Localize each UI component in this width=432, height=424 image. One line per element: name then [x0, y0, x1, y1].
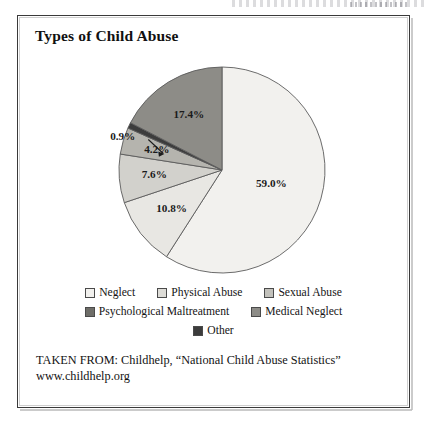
legend-swatch-icon	[85, 288, 95, 298]
legend-item-label: Sexual Abuse	[278, 287, 341, 299]
pie-slice-label: 17.4%	[173, 108, 204, 120]
legend-item-label: Psychological Maltreatment	[99, 306, 229, 318]
legend-item[interactable]: Neglect	[85, 287, 135, 299]
pie-chart-svg: 59.0%10.8%7.6%4.2%0.9%17.4%	[0, 0, 432, 300]
pie-slice-label: 0.9%	[110, 130, 135, 142]
pie-slice-label: 10.8%	[156, 202, 187, 214]
legend-swatch-icon	[251, 307, 261, 317]
source-line-1: TAKEN FROM: Childhelp, “National Child A…	[36, 352, 386, 368]
frame-shadow-bottom	[20, 409, 412, 411]
pie-slice-label: 59.0%	[256, 177, 287, 189]
legend-row: Other	[30, 321, 397, 340]
legend-swatch-icon	[264, 288, 274, 298]
legend-item[interactable]: Medical Neglect	[251, 306, 342, 318]
legend-item-label: Neglect	[99, 287, 135, 299]
legend-row: NeglectPhysical AbuseSexual Abuse	[30, 283, 397, 302]
legend-item[interactable]: Physical Abuse	[157, 287, 242, 299]
legend-swatch-icon	[85, 307, 95, 317]
legend-item[interactable]: Other	[193, 325, 233, 337]
legend-item[interactable]: Sexual Abuse	[264, 287, 341, 299]
source-attribution: TAKEN FROM: Childhelp, “National Child A…	[36, 352, 386, 384]
pie-chart: 59.0%10.8%7.6%4.2%0.9%17.4%	[0, 0, 432, 300]
legend: NeglectPhysical AbuseSexual AbusePsychol…	[30, 283, 397, 340]
legend-item-label: Medical Neglect	[265, 306, 342, 318]
pie-slice-label: 4.2%	[144, 143, 169, 155]
legend-item-label: Physical Abuse	[171, 287, 242, 299]
legend-row: Psychological MaltreatmentMedical Neglec…	[30, 302, 397, 321]
pie-slice-label: 7.6%	[142, 168, 167, 180]
legend-swatch-icon	[157, 288, 167, 298]
legend-item[interactable]: Psychological Maltreatment	[85, 306, 229, 318]
legend-item-label: Other	[207, 325, 233, 337]
source-line-2[interactable]: www.childhelp.org	[36, 368, 386, 384]
legend-swatch-icon	[193, 326, 203, 336]
